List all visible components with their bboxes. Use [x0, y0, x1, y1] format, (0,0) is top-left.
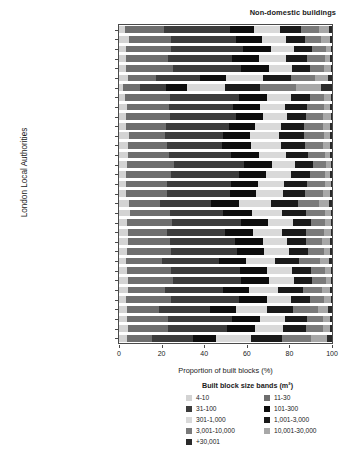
bar-segment[interactable]: [323, 316, 331, 323]
bar-segment[interactable]: [306, 229, 324, 236]
bar-segment[interactable]: [323, 142, 330, 149]
bar-segment[interactable]: [225, 229, 253, 236]
stacked-bar[interactable]: [119, 181, 332, 188]
stacked-bar[interactable]: [119, 123, 332, 130]
bar-segment[interactable]: [328, 306, 332, 313]
bar-segment[interactable]: [251, 142, 281, 149]
bar-segment[interactable]: [330, 55, 331, 62]
bar-segment[interactable]: [271, 46, 294, 53]
stacked-bar[interactable]: [119, 65, 332, 72]
bar-segment[interactable]: [164, 26, 230, 33]
bar-segment[interactable]: [275, 258, 299, 265]
bar-segment[interactable]: [311, 219, 325, 226]
bar-segment[interactable]: [331, 210, 332, 217]
bar-segment[interactable]: [119, 335, 127, 342]
bar-segment[interactable]: [256, 190, 283, 197]
bar-segment[interactable]: [170, 94, 239, 101]
bar-segment[interactable]: [127, 306, 159, 313]
bar-segment[interactable]: [313, 161, 326, 168]
bar-segment[interactable]: [127, 267, 172, 274]
stacked-bar[interactable]: [119, 335, 332, 342]
bar-segment[interactable]: [291, 94, 309, 101]
bar-segment[interactable]: [126, 181, 168, 188]
bar-segment[interactable]: [119, 267, 127, 274]
bar-segment[interactable]: [295, 161, 313, 168]
bar-segment[interactable]: [236, 36, 262, 43]
bar-segment[interactable]: [125, 26, 163, 33]
bar-segment[interactable]: [308, 248, 324, 255]
legend-item[interactable]: +30,001: [186, 437, 264, 447]
bar-segment[interactable]: [304, 132, 323, 139]
bar-segment[interactable]: [119, 104, 127, 111]
bar-segment[interactable]: [168, 55, 232, 62]
bar-segment[interactable]: [119, 277, 128, 284]
bar-segment[interactable]: [119, 200, 129, 207]
bar-segment[interactable]: [304, 123, 323, 130]
bar-segment[interactable]: [128, 238, 171, 245]
bar-segment[interactable]: [119, 181, 126, 188]
bar-segment[interactable]: [330, 152, 331, 159]
bar-segment[interactable]: [294, 277, 312, 284]
stacked-bar[interactable]: [119, 200, 332, 207]
bar-segment[interactable]: [223, 210, 252, 217]
bar-segment[interactable]: [311, 267, 325, 274]
bar-segment[interactable]: [128, 325, 167, 332]
bar-segment[interactable]: [223, 287, 250, 294]
bar-segment[interactable]: [267, 306, 294, 313]
bar-segment[interactable]: [260, 84, 296, 91]
bar-segment[interactable]: [291, 171, 310, 178]
bar-segment[interactable]: [128, 287, 165, 294]
bar-segment[interactable]: [306, 113, 323, 120]
bar-segment[interactable]: [310, 94, 325, 101]
bar-segment[interactable]: [286, 55, 307, 62]
bar-segment[interactable]: [323, 325, 330, 332]
bar-segment[interactable]: [167, 190, 230, 197]
bar-segment[interactable]: [241, 219, 269, 226]
bar-segment[interactable]: [329, 200, 332, 207]
bar-segment[interactable]: [126, 258, 162, 265]
stacked-bar[interactable]: [119, 325, 332, 332]
bar-segment[interactable]: [330, 36, 332, 43]
bar-segment[interactable]: [330, 123, 331, 130]
stacked-bar[interactable]: [119, 258, 332, 265]
bar-segment[interactable]: [291, 75, 315, 82]
bar-segment[interactable]: [283, 190, 305, 197]
bar-segment[interactable]: [171, 46, 243, 53]
bar-segment[interactable]: [323, 190, 330, 197]
bar-segment[interactable]: [128, 229, 166, 236]
bar-segment[interactable]: [233, 104, 260, 111]
bar-segment[interactable]: [303, 287, 322, 294]
bar-segment[interactable]: [246, 258, 275, 265]
bar-segment[interactable]: [171, 36, 236, 43]
bar-segment[interactable]: [331, 219, 332, 226]
bar-segment[interactable]: [315, 75, 328, 82]
bar-segment[interactable]: [237, 248, 265, 255]
bar-segment[interactable]: [258, 181, 285, 188]
bar-segment[interactable]: [310, 171, 325, 178]
bar-segment[interactable]: [119, 238, 128, 245]
bar-segment[interactable]: [272, 161, 295, 168]
stacked-bar[interactable]: [119, 238, 332, 245]
legend-item[interactable]: 1,001-3,000: [264, 415, 346, 425]
bar-segment[interactable]: [263, 113, 287, 120]
bar-segment[interactable]: [291, 296, 310, 303]
bar-segment[interactable]: [321, 36, 330, 43]
bar-segment[interactable]: [306, 325, 323, 332]
bar-segment[interactable]: [244, 161, 272, 168]
bar-segment[interactable]: [227, 325, 255, 332]
bar-segment[interactable]: [166, 84, 187, 91]
bar-segment[interactable]: [126, 113, 170, 120]
bar-segment[interactable]: [282, 335, 311, 342]
bar-segment[interactable]: [119, 229, 128, 236]
bar-segment[interactable]: [169, 104, 233, 111]
bar-segment[interactable]: [128, 142, 166, 149]
bar-segment[interactable]: [127, 161, 174, 168]
bar-segment[interactable]: [230, 190, 257, 197]
bar-segment[interactable]: [281, 142, 305, 149]
stacked-bar[interactable]: [119, 94, 332, 101]
bar-segment[interactable]: [268, 219, 292, 226]
bar-segment[interactable]: [187, 84, 225, 91]
bar-segment[interactable]: [329, 258, 332, 265]
bar-segment[interactable]: [226, 75, 263, 82]
bar-segment[interactable]: [127, 219, 173, 226]
